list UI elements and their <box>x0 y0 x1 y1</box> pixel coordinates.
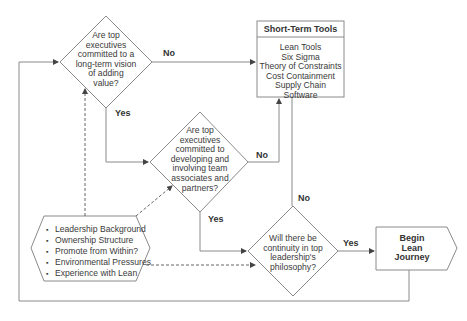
short-term-tools-list: Lean Tools Six Sigma Theory of Constrain… <box>257 43 344 101</box>
q1-no-label: No <box>163 48 175 58</box>
q3-yes-label: Yes <box>343 238 359 248</box>
decision-text-q3: Will there be continuity in top leadersh… <box>253 234 333 272</box>
factors-list: Leadership Background Ownership Structur… <box>46 224 151 279</box>
factor-item: Ownership Structure <box>46 235 151 246</box>
factor-item: Promote from Within? <box>46 246 151 257</box>
tool-item: Supply Chain Software <box>257 81 344 100</box>
text-line: partners? <box>158 184 242 194</box>
text-line: value? <box>66 79 146 89</box>
factor-item: Leadership Background <box>46 224 151 235</box>
decision-text-q2: Are top executives committed to developi… <box>158 126 242 193</box>
factor-item: Experience with Lean <box>46 268 151 279</box>
q1-yes-label: Yes <box>115 108 131 118</box>
q2-no-label: No <box>256 150 268 160</box>
q2-yes-label: Yes <box>208 214 224 224</box>
short-term-tools-title: Short-Term Tools <box>257 24 344 34</box>
text-line: philosophy? <box>253 263 333 273</box>
begin-lean-journey-label: Begin Lean Journey <box>376 234 448 263</box>
text-line: Journey <box>376 253 448 263</box>
decision-text-q1: Are top executives committed to a long-t… <box>66 31 146 89</box>
q3-no-label: No <box>298 193 310 203</box>
factor-item: Environmental Pressures <box>46 257 151 268</box>
